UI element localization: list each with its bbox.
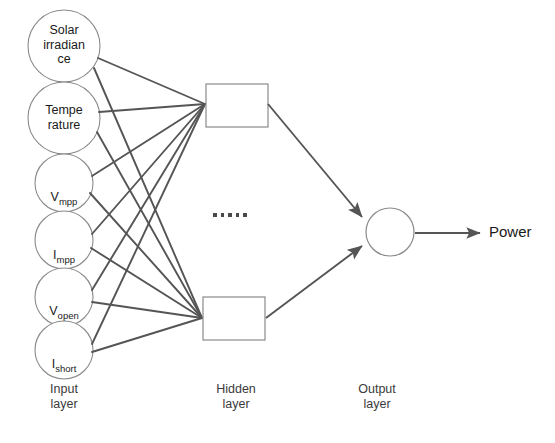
input-node-circles	[28, 10, 100, 379]
hidden-layer-rects	[203, 84, 268, 340]
node-circle-solar-irradiance	[28, 10, 100, 82]
node-circle-i-short	[35, 321, 93, 379]
network-connections-svg	[0, 0, 555, 443]
edge-vopen-to-hidden-top	[92, 104, 205, 290]
node-circle-i-mpp	[35, 211, 93, 269]
hidden-node-top	[206, 84, 268, 127]
node-circle-v-open	[35, 268, 93, 326]
edge-hidden-top-to-output	[268, 104, 362, 217]
output-power-label: Power	[489, 223, 532, 240]
layer-label-output: Output layer	[341, 382, 413, 412]
edge-hidden-bottom-to-output	[266, 246, 362, 318]
hidden-layer-ellipsis	[213, 213, 247, 217]
ellipsis-dot	[221, 213, 225, 217]
ellipsis-dot	[243, 213, 247, 217]
ellipsis-dot	[213, 213, 217, 217]
edge-temperature-to-hidden-bottom	[97, 132, 202, 318]
hidden-node-bottom	[203, 297, 265, 340]
ellipsis-dot	[236, 213, 240, 217]
connections-to-output	[266, 104, 362, 318]
edge-temperature-to-hidden-top	[99, 104, 205, 112]
edge-vmpp-to-hidden-bottom	[90, 193, 202, 318]
neural-network-diagram: Solar irradian ce Tempe rature Vmpp Impp…	[0, 0, 555, 443]
ellipsis-dot	[228, 213, 232, 217]
layer-label-input: Input layer	[28, 382, 100, 412]
output-node-circle	[366, 208, 414, 256]
edge-ishort-to-hidden-bottom	[92, 318, 202, 352]
edge-solar-to-hidden-top	[98, 58, 205, 104]
node-circle-v-mpp	[35, 154, 93, 212]
layer-label-hidden: Hidden layer	[200, 382, 272, 412]
edge-impp-to-hidden-bottom	[91, 248, 202, 318]
node-circle-temperature	[28, 82, 100, 154]
